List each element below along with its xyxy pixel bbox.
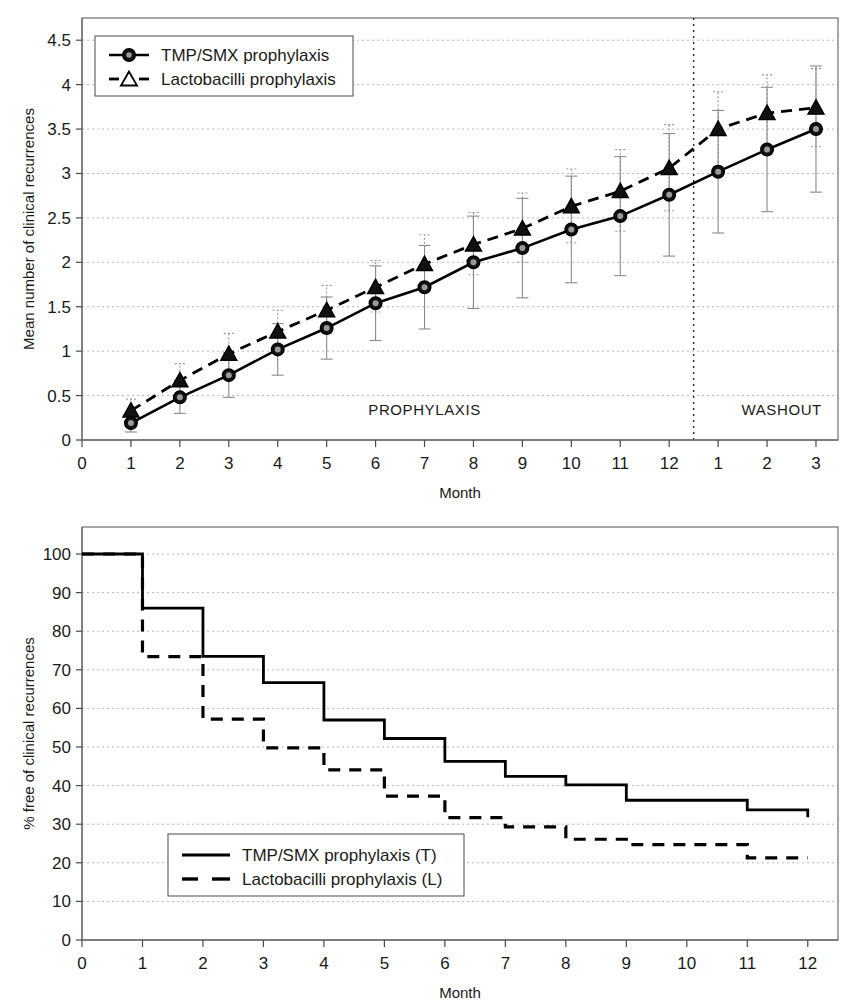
- data-point-marker-triangle: [123, 403, 139, 417]
- legend-label-lactobacilli: Lactobacilli prophylaxis (L): [242, 870, 442, 889]
- legend-label-tmpsmx: TMP/SMX prophylaxis: [161, 46, 329, 65]
- data-point-marker-circle-inner: [422, 284, 428, 290]
- data-point-marker-triangle: [368, 279, 384, 293]
- data-point-marker-circle-inner: [617, 213, 623, 219]
- data-point-marker-circle-inner: [715, 169, 721, 175]
- top-x-axis-title: Month: [439, 484, 481, 500]
- x-tick-label: 9: [518, 454, 527, 473]
- x-tick-label: 3: [259, 954, 268, 973]
- data-point-marker-triangle: [808, 100, 824, 114]
- y-tick-label: 4: [62, 76, 71, 95]
- step-curve-lactobacilli: [82, 554, 808, 858]
- x-tick-label: 8: [561, 954, 570, 973]
- legend-label-lactobacilli: Lactobacilli prophylaxis: [161, 70, 336, 89]
- data-point-marker-circle-inner: [666, 192, 672, 198]
- data-point-marker-circle-inner: [470, 259, 476, 265]
- top-x-ticks: 0123456789101112123: [77, 440, 820, 473]
- x-tick-label: 7: [420, 454, 429, 473]
- y-tick-label: 70: [52, 661, 71, 680]
- y-tick-label: 2.5: [47, 209, 71, 228]
- x-tick-label: 11: [611, 454, 629, 473]
- region-label: WASHOUT: [742, 401, 822, 418]
- x-tick-label: 6: [440, 954, 449, 973]
- data-point-marker-circle-inner: [568, 226, 574, 232]
- x-tick-label: 2: [175, 454, 184, 473]
- x-tick-label: 6: [371, 454, 380, 473]
- x-tick-label: 11: [738, 954, 756, 973]
- x-tick-label: 1: [138, 954, 147, 973]
- bottom-x-axis-title: Month: [439, 984, 481, 1001]
- x-tick-label: 4: [273, 454, 282, 473]
- data-point-marker-triangle: [270, 324, 286, 338]
- x-tick-label: 9: [622, 954, 631, 973]
- data-point-marker-triangle: [710, 121, 726, 135]
- x-tick-label: 4: [319, 954, 328, 973]
- y-tick-label: 4.5: [47, 31, 71, 50]
- data-point-marker-triangle: [319, 302, 335, 316]
- x-tick-label: 1: [126, 454, 135, 473]
- y-tick-label: 10: [52, 892, 71, 911]
- region-label: PROPHYLAXIS: [368, 401, 480, 418]
- y-tick-label: 1: [62, 342, 71, 361]
- x-tick-label: 3: [811, 454, 820, 473]
- bottom-chart-legend: TMP/SMX prophylaxis (T)Lactobacilli prop…: [168, 834, 464, 896]
- y-tick-label: 3.5: [47, 120, 71, 139]
- y-tick-label: 30: [52, 815, 71, 834]
- data-point-marker-circle-inner: [177, 394, 183, 400]
- x-tick-label: 3: [224, 454, 233, 473]
- bottom-x-ticks: 0123456789101112: [77, 940, 817, 973]
- top-chart-svg: 00.511.522.533.544.50123456789101112123M…: [0, 0, 856, 500]
- y-tick-label: 0: [62, 431, 71, 450]
- data-point-marker-circle-inner: [519, 245, 525, 251]
- chart-panel-top: 00.511.522.533.544.50123456789101112123M…: [0, 0, 856, 500]
- bottom-y-axis-title: % free of clinical recurrences: [20, 637, 37, 830]
- x-tick-label: 5: [322, 454, 331, 473]
- x-tick-label: 2: [198, 954, 207, 973]
- data-point-marker-circle-inner: [373, 300, 379, 306]
- x-tick-label: 7: [501, 954, 510, 973]
- data-point-marker-circle-inner: [324, 325, 330, 331]
- data-point-marker-triangle: [514, 221, 530, 235]
- y-tick-label: 60: [52, 699, 71, 718]
- y-tick-label: 90: [52, 584, 71, 603]
- x-tick-label: 10: [562, 454, 581, 473]
- top-y-axis-title: Mean number of clinical recurrences: [20, 108, 37, 350]
- x-tick-label: 0: [77, 454, 86, 473]
- data-point-marker-circle-inner: [128, 420, 134, 426]
- y-tick-label: 1.5: [47, 298, 71, 317]
- x-tick-label: 12: [660, 454, 679, 473]
- x-tick-label: 10: [677, 954, 696, 973]
- legend-marker-circle-inner: [126, 52, 132, 58]
- y-tick-label: 2: [62, 253, 71, 272]
- x-tick-label: 12: [798, 954, 817, 973]
- data-point-marker-circle-inner: [226, 372, 232, 378]
- data-point-marker-circle-inner: [813, 126, 819, 132]
- y-tick-label: 100: [43, 545, 71, 564]
- x-tick-label: 8: [469, 454, 478, 473]
- x-tick-label: 1: [713, 454, 722, 473]
- top-y-ticks: 00.511.522.533.544.5: [47, 31, 82, 450]
- y-tick-label: 0.5: [47, 387, 71, 406]
- y-tick-label: 0: [62, 931, 71, 950]
- y-tick-label: 3: [62, 164, 71, 183]
- data-point-marker-circle-inner: [764, 146, 770, 152]
- y-tick-label: 50: [52, 738, 71, 757]
- x-tick-label: 0: [77, 954, 86, 973]
- bottom-chart-svg: 01020304050607080901000123456789101112Mo…: [0, 500, 856, 1006]
- x-tick-label: 2: [762, 454, 771, 473]
- y-tick-label: 20: [52, 854, 71, 873]
- bottom-y-ticks: 0102030405060708090100: [43, 545, 82, 950]
- data-point-marker-circle-inner: [275, 346, 281, 352]
- chart-panel-bottom: 01020304050607080901000123456789101112Mo…: [0, 500, 856, 1006]
- x-tick-label: 5: [380, 954, 389, 973]
- top-chart-legend: TMP/SMX prophylaxisLactobacilli prophyla…: [95, 36, 353, 96]
- data-point-marker-triangle: [172, 372, 188, 386]
- y-tick-label: 80: [52, 622, 71, 641]
- legend-label-tmpsmx: TMP/SMX prophylaxis (T): [242, 846, 437, 865]
- y-tick-label: 40: [52, 777, 71, 796]
- data-point-marker-triangle: [612, 183, 628, 197]
- figure-container: 00.511.522.533.544.50123456789101112123M…: [0, 0, 856, 1006]
- step-curve-tmpsmx: [82, 554, 808, 817]
